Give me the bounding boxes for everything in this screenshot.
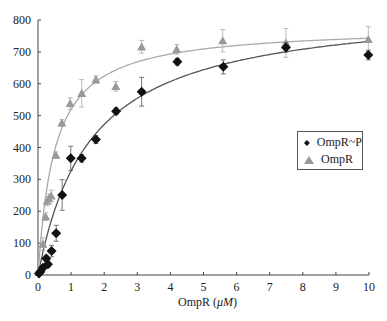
data-point-ompr <box>77 89 86 97</box>
data-point-ompr <box>218 36 227 44</box>
x-tick-label: 4 <box>167 280 173 294</box>
data-point-ompr-p <box>51 228 61 238</box>
legend-item-ompr: OmpR <box>298 151 362 168</box>
data-point-ompr <box>66 99 75 107</box>
legend-item-ompr-p: OmpR~P <box>298 134 362 151</box>
x-tick-label: 5 <box>201 280 207 294</box>
data-point-ompr <box>111 82 120 90</box>
legend-label: OmpR <box>321 152 353 167</box>
y-tick-label: 500 <box>13 109 31 123</box>
x-axis-label-suffix: ) <box>233 295 237 309</box>
x-tick-label: 3 <box>134 280 140 294</box>
data-point-ompr <box>137 42 146 50</box>
data-point-ompr <box>41 212 50 220</box>
x-tick-label: 6 <box>234 280 240 294</box>
triangle-marker-icon <box>304 155 314 165</box>
data-point-ompr-p <box>66 153 76 163</box>
x-tick-label: 10 <box>363 280 375 294</box>
x-tick-label: 0 <box>35 280 41 294</box>
data-point-ompr-p <box>91 135 101 145</box>
legend: OmpR~P OmpR <box>297 131 363 170</box>
x-tick-label: 9 <box>333 280 339 294</box>
y-tick-label: 400 <box>13 141 31 155</box>
data-point-ompr <box>364 35 373 43</box>
y-tick-label: 600 <box>13 77 31 91</box>
y-tick-label: 300 <box>13 172 31 186</box>
data-point-ompr <box>51 151 60 159</box>
x-axis-label: OmpR (μM) <box>0 295 387 310</box>
y-tick-label: 700 <box>13 45 31 59</box>
data-point-ompr-p <box>172 57 182 67</box>
x-tick-label: 1 <box>68 280 74 294</box>
y-tick-label: 0 <box>25 268 31 282</box>
y-tick-label: 100 <box>13 236 31 250</box>
y-tick-label: 200 <box>13 204 31 218</box>
x-tick-label: 8 <box>300 280 306 294</box>
data-point-ompr-p <box>77 153 87 163</box>
x-axis-label-text: OmpR ( <box>178 295 217 309</box>
data-point-ompr-p <box>363 50 373 60</box>
x-axis-unit: μM <box>217 295 233 309</box>
data-point-ompr-p <box>47 246 57 256</box>
x-tick-label: 2 <box>101 280 107 294</box>
y-tick-label: 800 <box>13 13 31 27</box>
data-point-ompr-p <box>111 106 121 116</box>
x-tick-label: 7 <box>267 280 273 294</box>
diamond-marker-icon <box>304 138 310 148</box>
legend-label: OmpR~P <box>317 135 362 150</box>
data-point-ompr <box>172 45 181 53</box>
data-point-ompr-p <box>137 87 147 97</box>
